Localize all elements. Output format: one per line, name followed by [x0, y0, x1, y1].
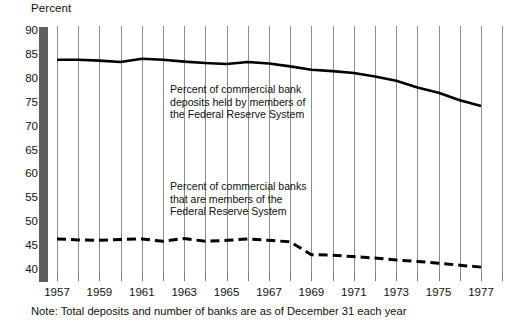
series-line-banks	[57, 238, 481, 267]
annotation-banks: Percent of commercial banks that are mem…	[170, 180, 307, 218]
annotation-deposits: Percent of commercial bank deposits held…	[170, 83, 305, 121]
series-layer	[0, 0, 508, 325]
chart-container: Percent 9085807570656055504540 195719591…	[0, 0, 508, 325]
chart-note: Note: Total deposits and number of banks…	[31, 305, 406, 318]
